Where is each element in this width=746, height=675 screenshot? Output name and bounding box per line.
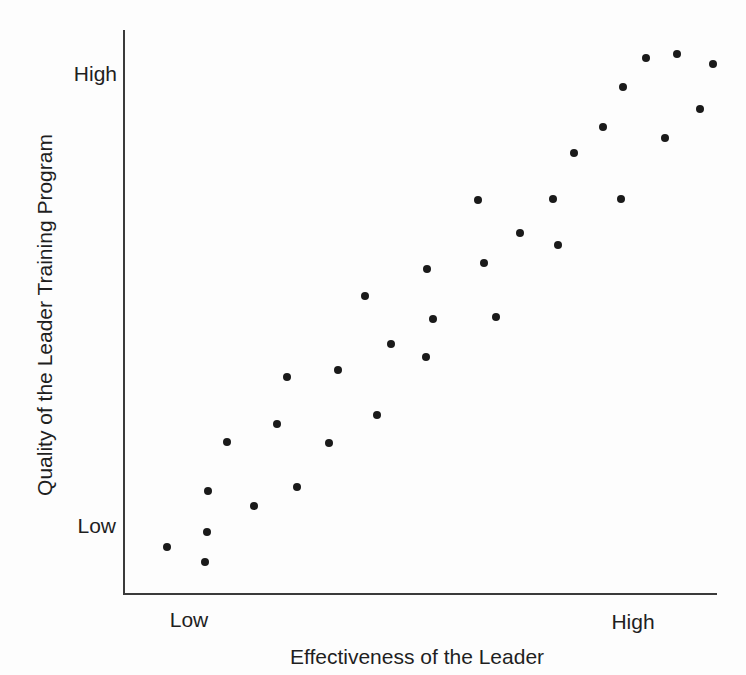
- data-point: [293, 483, 301, 491]
- data-point: [334, 366, 342, 374]
- data-point: [480, 259, 488, 267]
- data-point: [549, 195, 557, 203]
- plot-area: [123, 30, 717, 593]
- data-point: [661, 134, 669, 142]
- data-point: [516, 229, 524, 237]
- data-point: [250, 502, 258, 510]
- data-point: [709, 60, 717, 68]
- data-point: [696, 105, 704, 113]
- data-point: [619, 83, 627, 91]
- x-axis-line: [123, 593, 717, 595]
- data-point: [429, 315, 437, 323]
- data-point: [273, 420, 281, 428]
- data-point: [283, 373, 291, 381]
- data-point: [423, 265, 431, 273]
- data-point: [422, 353, 430, 361]
- x-axis-title: Effectiveness of the Leader: [267, 645, 567, 669]
- x-axis-tick-label-high: High: [593, 610, 673, 634]
- data-point: [570, 149, 578, 157]
- data-point: [673, 50, 681, 58]
- data-point: [325, 439, 333, 447]
- data-point: [554, 241, 562, 249]
- data-point: [474, 196, 482, 204]
- data-point: [492, 313, 500, 321]
- data-point: [204, 487, 212, 495]
- data-point: [203, 528, 211, 536]
- data-point: [201, 558, 209, 566]
- scatter-plot-figure: Quality of the Leader Training Program H…: [0, 0, 746, 675]
- data-point: [361, 292, 369, 300]
- data-point: [387, 340, 395, 348]
- y-axis-tick-label-low: Low: [40, 514, 116, 538]
- data-point: [642, 54, 650, 62]
- data-point: [373, 411, 381, 419]
- data-point: [223, 438, 231, 446]
- data-point: [599, 123, 607, 131]
- y-axis-title: Quality of the Leader Training Program: [33, 134, 57, 496]
- data-point: [617, 195, 625, 203]
- y-axis-tick-label-high: High: [40, 62, 117, 86]
- x-axis-tick-label-low: Low: [149, 608, 229, 632]
- data-point: [163, 543, 171, 551]
